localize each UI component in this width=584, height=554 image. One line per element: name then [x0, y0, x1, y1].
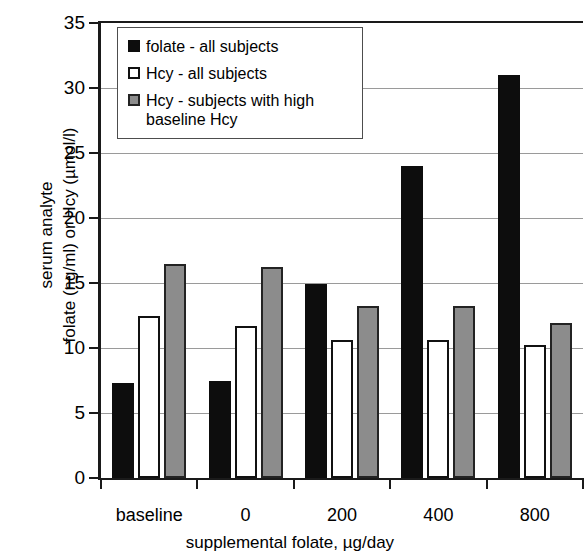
bar-hcyhigh-baseline	[164, 264, 186, 479]
legend-swatch-hcyhigh	[128, 94, 140, 106]
y-axis-tick	[89, 217, 101, 219]
y-axis-tick	[89, 282, 101, 284]
y-axis-tick	[89, 412, 101, 414]
y-axis-tick	[89, 347, 101, 349]
legend-swatch-folate	[128, 40, 140, 52]
x-axis-tick-label: 400	[423, 505, 453, 526]
bar-hcyhigh-0	[261, 267, 283, 478]
y-axis-tick	[89, 22, 101, 24]
x-axis-tick	[486, 478, 488, 489]
bar-hcyhigh-800	[550, 323, 572, 478]
bar-hcy-800	[524, 345, 546, 478]
bar-folate-200	[305, 284, 327, 478]
legend-item: folate - all subjects	[128, 37, 354, 56]
bar-hcy-0	[235, 326, 257, 478]
y-axis-tick-label: 10	[25, 337, 85, 359]
bar-folate-400	[401, 166, 423, 478]
x-axis-title: supplemental folate, µg/day	[0, 533, 580, 553]
bar-hcy-200	[331, 340, 353, 478]
legend-item-label: Hcy - subjects with high baseline Hcy	[146, 91, 314, 129]
legend-item-label: folate - all subjects	[146, 37, 279, 56]
y-axis-tick-label: 0	[25, 467, 85, 489]
x-axis-tick-label: 800	[520, 505, 550, 526]
y-axis-tick-label: 20	[25, 207, 85, 229]
bar-hcy-baseline	[138, 316, 160, 479]
x-axis-tick	[389, 478, 391, 489]
x-axis-tick	[100, 478, 102, 489]
bar-folate-0	[209, 381, 231, 479]
legend-item: Hcy - all subjects	[128, 64, 354, 83]
legend-item-label: Hcy - all subjects	[146, 64, 267, 83]
x-axis-tick	[293, 478, 295, 489]
x-axis-tick-label: baseline	[116, 505, 183, 526]
y-axis-tick	[89, 87, 101, 89]
bar-folate-800	[498, 75, 520, 478]
x-axis-line	[98, 478, 583, 480]
y-axis-tick-label: 15	[25, 272, 85, 294]
bar-folate-baseline	[112, 383, 134, 478]
legend: folate - all subjectsHcy - all subjectsH…	[117, 27, 363, 139]
y-axis-tick	[89, 152, 101, 154]
legend-item: Hcy - subjects with high baseline Hcy	[128, 91, 354, 129]
y-axis-tick-label: 25	[25, 142, 85, 164]
legend-swatch-hcy	[128, 67, 140, 79]
y-axis-tick-label: 30	[25, 77, 85, 99]
y-axis-tick-label: 5	[25, 402, 85, 424]
x-axis-tick-label: 200	[327, 505, 357, 526]
x-axis-tick	[196, 478, 198, 489]
y-axis-tick-label: 35	[25, 12, 85, 34]
bar-hcyhigh-400	[453, 306, 475, 478]
x-axis-tick-label: 0	[241, 505, 251, 526]
bar-hcy-400	[427, 340, 449, 478]
bar-hcyhigh-200	[357, 306, 379, 478]
